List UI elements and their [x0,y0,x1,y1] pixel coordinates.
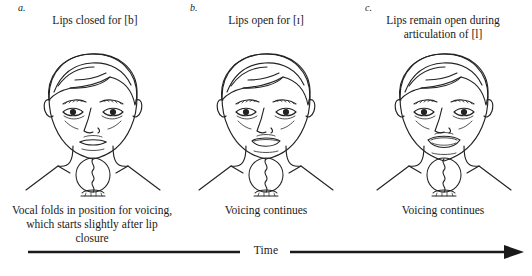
chin-crease [254,151,278,153]
vocal-folds-icon [249,158,283,196]
vocal-folds-wave [443,159,445,192]
nose-bridge [84,108,93,133]
hair-strand-3 [426,73,457,80]
left-cheek-line [238,121,251,129]
larynx-base-hatch [436,192,453,196]
vocal-folds-wave [265,159,267,192]
left-pupil [421,109,427,115]
lower-teeth-line [432,143,456,145]
time-axis [0,240,532,266]
philtrum-line [257,135,275,137]
right-eye-crease [275,116,295,119]
panel-b-illustration [178,42,354,200]
right-shoulder [289,166,333,190]
right-shoulder [116,166,160,190]
hair-strand-3 [248,73,279,80]
right-cheek-line [281,121,294,129]
face-drawing-closed-lips [18,42,168,200]
philtrum-line [435,133,453,135]
left-shoulder [377,166,421,190]
time-axis-arrowhead [504,245,524,259]
left-eye-crease [415,116,435,119]
panel-b-top-caption: Lips open for [ɪ] [178,14,354,28]
panel-c: c. Lips remain open duringarticulation o… [354,0,532,236]
right-pupil [283,109,289,115]
nose-right-wing [449,128,451,133]
chin-crease [432,153,456,155]
right-cheek-line [108,121,121,129]
right-pupil [110,109,116,115]
nose-bridge [257,108,266,133]
philtrum-line [84,136,102,138]
panel-b: b. Lips open for [ɪ] [178,0,354,236]
right-shoulder [467,166,511,190]
panel-a-letter: a. [18,2,26,13]
panel-b-letter: b. [190,2,198,13]
panel-a-illustration [0,42,178,200]
lower-lip [80,142,106,145]
larynx-base-hatch [85,192,102,196]
right-eye-crease [102,116,122,119]
panel-a-bottom-caption: Vocal folds in position for voicing,whic… [0,203,178,245]
panel-c-letter: c. [365,2,372,13]
left-shoulder [26,166,70,190]
right-cheek-line [459,121,472,129]
panel-c-illustration [354,42,532,200]
face-drawing-open-lips [191,42,341,200]
upper-lip [80,140,106,142]
nose-right-wing [98,128,100,133]
vocal-folds-icon [76,158,110,196]
hair-outline [49,54,137,105]
vocal-folds-icon [427,158,461,196]
chin-crease [82,149,104,151]
left-pupil [243,109,249,115]
vocal-folds-wave [92,159,94,192]
voicing-sequence-figure: a. Lips closed for [b] [0,0,532,276]
upper-teeth-line [431,138,457,140]
right-pupil [461,109,467,115]
hair-outline [222,54,310,105]
panel-a: a. Lips closed for [b] [0,0,178,236]
panel-c-top-caption: Lips remain open duringarticulation of [… [354,14,532,41]
hair-strand-3 [75,73,106,80]
larynx-base-hatch [258,192,275,196]
panel-b-bottom-caption: Voicing continues [178,203,354,217]
left-pupil [70,109,76,115]
face-drawing-wide-open-lips [369,42,519,200]
teeth-line [254,140,278,142]
nose-right-wing [271,128,273,133]
left-cheek-line [65,121,78,129]
hair-outline [400,54,488,105]
right-eye-crease [453,116,473,119]
left-shoulder [199,166,243,190]
left-eye-crease [237,116,257,119]
panel-a-top-caption: Lips closed for [b] [0,14,178,28]
head-outline [222,54,310,159]
head-outline [49,54,137,159]
panel-c-bottom-caption: Voicing continues [354,203,532,217]
left-cheek-line [416,121,429,129]
nose-bridge [435,108,444,133]
left-eye-crease [64,116,84,119]
